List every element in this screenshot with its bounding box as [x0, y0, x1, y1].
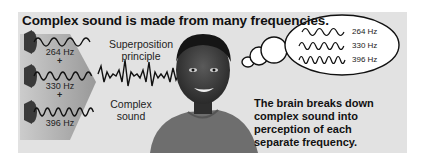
speaker-icon: [24, 30, 37, 54]
complex-waveform: [98, 60, 182, 86]
bubble-label-396: 396 Hz: [352, 55, 377, 64]
plus-sign: +: [57, 90, 62, 100]
diagram-title: Complex sound is made from many frequenc…: [22, 13, 329, 28]
speaker-icon: [24, 100, 37, 124]
tone-label-396: 396 Hz: [40, 118, 80, 128]
bubble-label-330: 330 Hz: [352, 41, 377, 50]
bubble-label-264: 264 Hz: [352, 27, 377, 36]
plus-sign: +: [57, 56, 62, 66]
caption-text: The brain breaks down complex sound into…: [254, 97, 404, 149]
complex-sound-label: Complex sound: [96, 98, 166, 122]
speaker-icon: [24, 64, 37, 88]
diagram-panel: Complex sound is made from many frequenc…: [18, 12, 407, 153]
superposition-label: Superposition principle: [96, 38, 186, 62]
